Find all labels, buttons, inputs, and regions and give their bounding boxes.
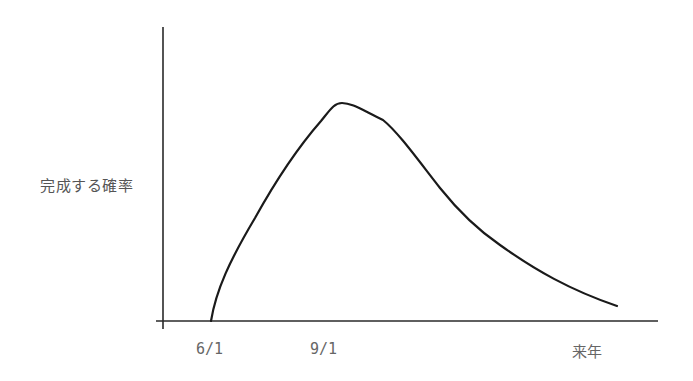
y-axis-label: 完成する確率 xyxy=(40,174,133,195)
x-tick-next-year: 来年 xyxy=(572,340,602,361)
x-tick-9-1: 9/1 xyxy=(310,340,337,358)
probability-curve xyxy=(211,103,617,321)
x-tick-6-1: 6/1 xyxy=(196,340,223,358)
probability-chart: 完成する確率 6/1 9/1 来年 xyxy=(0,0,693,381)
